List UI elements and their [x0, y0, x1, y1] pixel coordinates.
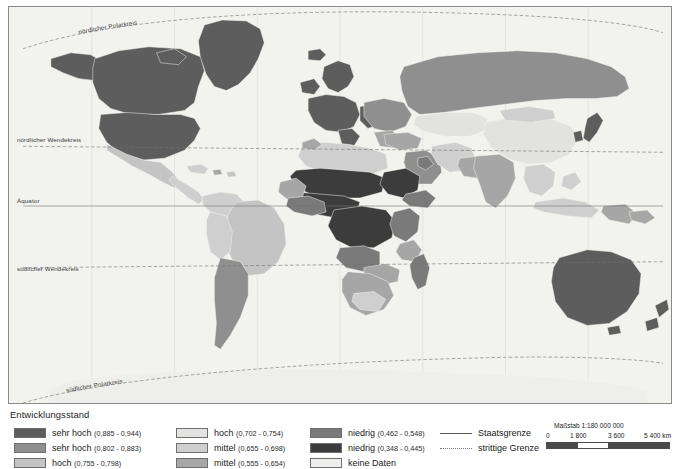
legend-item-hoch-2[interactable]: hoch (0,702 - 0,754) [176, 426, 308, 440]
label-equator: Äquator [17, 197, 40, 204]
legend-item-hoch-1[interactable]: hoch (0,755 - 0,798) [14, 456, 174, 469]
scale-tick-3: 5 400 km [644, 432, 671, 439]
scale-title: Maßstab 1:180 000 000 [554, 422, 674, 429]
legend-column-3: niedrig (0,462 - 0,548) niedrig (0,348 -… [310, 426, 438, 469]
legend-item-niedrig-2[interactable]: niedrig (0,348 - 0,445) [310, 441, 438, 455]
legend-item-staatsgrenze[interactable]: Staatsgrenze [440, 426, 550, 440]
legend-swatch-mittel-1 [176, 443, 208, 453]
scale-seg-4 [639, 443, 670, 448]
scale-tick-2: 3 600 [608, 432, 625, 439]
region-canada[interactable] [93, 47, 205, 115]
legend-item-mittel-2[interactable]: mittel (0,555 - 0,654) [176, 456, 308, 469]
legend-item-mittel-1[interactable]: mittel (0,655 - 0,698) [176, 441, 308, 455]
scale-bar-block: Maßstab 1:180 000 000 0 1 800 3 600 5 40… [546, 422, 674, 449]
legend-swatch-niedrig-1 [310, 428, 342, 438]
strittige-grenze-line-icon [440, 443, 472, 453]
scale-seg-2 [578, 443, 609, 448]
scale-seg-3 [608, 443, 639, 448]
legend-label-niedrig-2: niedrig (0,348 - 0,445) [348, 443, 425, 453]
staatsgrenze-line-icon [440, 428, 472, 438]
legend-label-hoch-1: hoch (0,755 - 0,798) [52, 458, 121, 468]
legend-label-sehr-hoch-1: sehr hoch (0,885 - 0,944) [52, 428, 141, 438]
legend-swatch-sehr-hoch-2 [14, 443, 46, 453]
legend-label-staatsgrenze: Staatsgrenze [478, 428, 531, 438]
legend-column-lines: Staatsgrenze strittige Grenze [440, 426, 550, 456]
label-tropic-capricorn: südlicher Wendekreis [17, 265, 79, 272]
legend-label-sehr-hoch-2: sehr hoch (0,802 - 0,883) [52, 443, 141, 453]
legend-title: Entwicklungsstand [10, 409, 89, 420]
scale-seg-1 [547, 443, 578, 448]
legend-label-mittel-2: mittel (0,555 - 0,654) [214, 458, 285, 468]
legend-label-mittel-1: mittel (0,655 - 0,698) [214, 443, 285, 453]
region-tasmania[interactable] [607, 325, 621, 335]
legend-item-sehr-hoch-1[interactable]: sehr hoch (0,885 - 0,944) [14, 426, 174, 440]
region-korea[interactable] [573, 130, 583, 142]
legend-item-strittige-grenze[interactable]: strittige Grenze [440, 441, 550, 455]
map-page: .vh1 { fill:#5d5d5d; } /* sehr hoch 0.88… [0, 0, 680, 469]
legend-item-sehr-hoch-2[interactable]: sehr hoch (0,802 - 0,883) [14, 441, 174, 455]
world-map[interactable]: .vh1 { fill:#5d5d5d; } /* sehr hoch 0.88… [8, 6, 672, 404]
legend-swatch-keine-daten [310, 458, 342, 468]
map-canvas: .vh1 { fill:#5d5d5d; } /* sehr hoch 0.88… [9, 7, 671, 403]
legend-label-hoch-2: hoch (0,702 - 0,754) [214, 428, 283, 438]
label-tropic-cancer: nördlicher Wendekreis [17, 136, 81, 143]
legend-swatch-sehr-hoch-1 [14, 428, 46, 438]
legend-item-keine-daten[interactable]: keine Daten [310, 456, 438, 469]
scale-tick-1: 1 800 [570, 432, 587, 439]
scale-bar [546, 442, 670, 449]
legend-swatch-hoch-1 [14, 458, 46, 468]
legend-item-niedrig-1[interactable]: niedrig (0,462 - 0,548) [310, 426, 438, 440]
legend-label-niedrig-1: niedrig (0,462 - 0,548) [348, 428, 425, 438]
legend-column-2: hoch (0,702 - 0,754) mittel (0,655 - 0,6… [176, 426, 308, 469]
scale-tick-0: 0 [546, 432, 550, 439]
legend-label-strittige-grenze: strittige Grenze [478, 443, 539, 453]
scale-tick-labels: 0 1 800 3 600 5 400 km [546, 432, 674, 441]
legend-swatch-niedrig-2 [310, 443, 342, 453]
legend-swatch-mittel-2 [176, 458, 208, 468]
legend-swatch-hoch-2 [176, 428, 208, 438]
legend-column-1: sehr hoch (0,885 - 0,944) sehr hoch (0,8… [14, 426, 174, 469]
legend-label-keine-daten: keine Daten [348, 458, 396, 468]
